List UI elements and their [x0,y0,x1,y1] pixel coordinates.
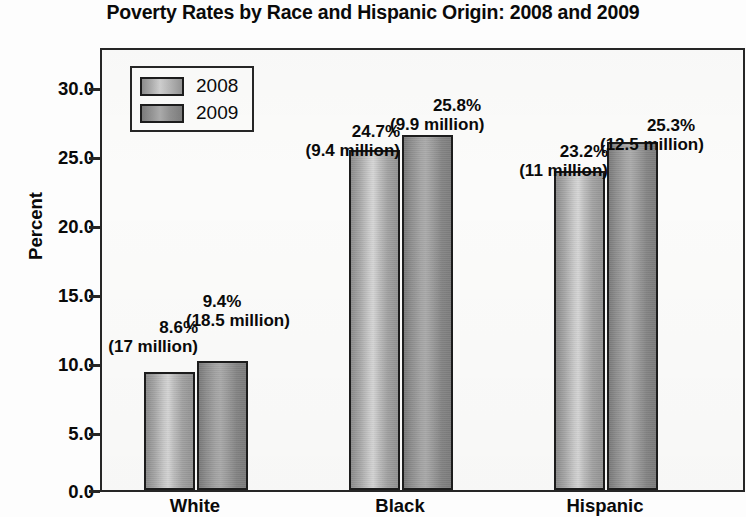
y-tick-label-15: 15.0 [24,287,94,306]
data-label-black-2009: 25.8% (9.9 million) [390,96,530,134]
y-tick-mark-10 [89,364,100,367]
y-tick-label-25: 25.0 [24,149,94,168]
bar-hispanic-2009[interactable] [607,142,658,490]
y-tick-label-20: 20.0 [24,218,94,237]
y-tick-mark-25 [89,157,100,160]
poverty-rates-bar-chart: Poverty Rates by Race and Hispanic Origi… [0,0,746,517]
bar-white-2008[interactable] [144,372,195,490]
legend-item-2009[interactable]: 2009 [140,101,250,125]
y-tick-mark-5 [89,433,100,436]
x-axis-label-white: White [95,495,295,517]
data-label-hispanic-2008-pct: 23.2% [478,142,608,161]
legend-label-2008: 2008 [196,74,238,98]
data-label-black-2009-count: (9.9 million) [390,115,530,134]
y-tick-mark-20 [89,226,100,229]
bar-white-2009[interactable] [197,361,248,490]
data-label-hispanic-2008-count: (11 million) [478,161,608,180]
data-label-hispanic-2008: 23.2% (11 million) [478,142,608,180]
data-label-white-2008-count: (17 million) [78,337,198,356]
y-tick-label-30: 30.0 [24,80,94,99]
y-tick-mark-0 [89,490,100,493]
y-tick-mark-30 [89,88,100,91]
data-label-hispanic-2009: 25.3% (12.5 million) [600,116,746,154]
legend-swatch-2009-icon [140,104,184,123]
data-label-white-2008: 8.6% (17 million) [78,318,198,356]
data-label-white-2008-pct: 8.6% [78,318,198,337]
chart-title: Poverty Rates by Race and Hispanic Origi… [0,1,746,24]
legend-swatch-2008-icon [140,77,184,96]
bar-black-2008[interactable] [349,150,400,490]
data-label-white-2009-count: (18.5 million) [186,311,336,330]
y-tick-label-0: 0.0 [24,483,94,502]
data-label-hispanic-2009-count: (12.5 million) [600,135,746,154]
data-label-white-2009-pct: 9.4% [186,292,258,311]
y-tick-label-10: 10.0 [24,356,94,375]
data-label-white-2009: 9.4% (18.5 million) [186,292,336,330]
y-tick-label-5: 5.0 [24,425,94,444]
x-axis-label-hispanic: Hispanic [505,495,705,517]
data-label-black-2008-pct: 24.7% [270,122,400,141]
legend: 2008 2009 [130,66,254,132]
data-label-hispanic-2009-pct: 25.3% [600,116,742,135]
data-label-black-2008: 24.7% (9.4 million) [270,122,400,160]
data-label-black-2009-pct: 25.8% [390,96,524,115]
x-axis-label-black: Black [300,495,500,517]
data-label-black-2008-count: (9.4 million) [270,141,400,160]
legend-item-2008[interactable]: 2008 [140,74,250,98]
legend-label-2009: 2009 [196,101,238,125]
bar-black-2009[interactable] [402,135,453,490]
bar-hispanic-2008[interactable] [554,171,605,490]
y-tick-mark-15 [89,295,100,298]
